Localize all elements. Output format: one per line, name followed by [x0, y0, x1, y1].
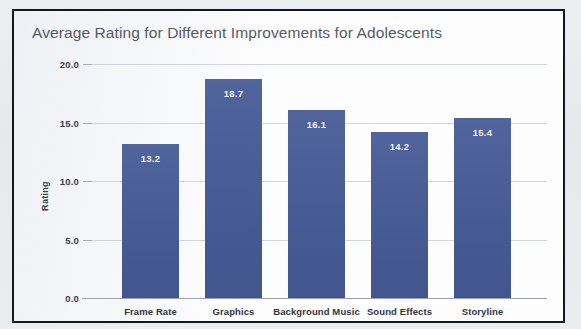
x-tick-label-storyline: Storyline	[438, 306, 527, 317]
gridline: 20.0	[92, 64, 547, 65]
y-tick-mark	[83, 123, 92, 124]
x-tick-label-frame-rate: Frame Rate	[106, 306, 195, 317]
chart-title: Average Rating for Different Improvement…	[32, 24, 442, 42]
bar-storyline[interactable]: 15.4 Storyline	[454, 118, 511, 298]
y-tick-mark	[83, 240, 92, 241]
y-axis-title: Rating	[40, 181, 50, 211]
y-tick-mark	[83, 64, 92, 65]
y-tick-label: 0.0	[65, 293, 79, 304]
y-tick-label: 5.0	[65, 234, 79, 245]
y-tick-label: 10.0	[60, 176, 79, 187]
chart-plot-area-background: Average Rating for Different Improvement…	[14, 11, 563, 321]
bar-background-music[interactable]: 16.1 Background Music	[288, 110, 345, 298]
x-tick-label-background-music: Background Music	[272, 306, 361, 317]
bar-sound-effects[interactable]: 14.2 Sound Effects	[371, 132, 428, 298]
y-tick-mark	[83, 181, 92, 182]
x-tick-label-sound-effects: Sound Effects	[355, 306, 444, 317]
bar-frame-rate[interactable]: 13.2 Frame Rate	[122, 144, 179, 298]
bar-value-label: 13.2	[122, 153, 179, 164]
y-tick-label: 15.0	[60, 117, 79, 128]
bar-value-label: 14.2	[371, 141, 428, 152]
plot-area: 20.0 15.0 10.0 5.0 0.0 13.2 Fr	[92, 64, 547, 298]
x-axis-line	[82, 298, 547, 299]
bar-graphics[interactable]: 18.7 Graphics	[205, 79, 262, 298]
y-tick-label: 20.0	[60, 59, 79, 70]
bar-value-label: 16.1	[288, 119, 345, 130]
x-tick-label-graphics: Graphics	[189, 306, 278, 317]
bar-value-label: 15.4	[454, 127, 511, 138]
chart-panel: Average Rating for Different Improvement…	[12, 9, 565, 323]
bar-value-label: 18.7	[205, 88, 262, 99]
